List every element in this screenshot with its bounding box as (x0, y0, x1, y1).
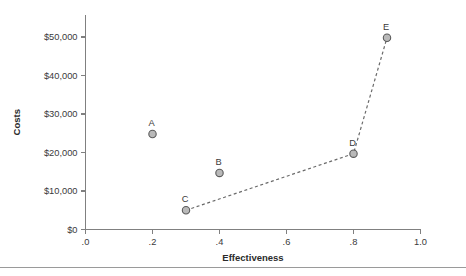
data-point-B[interactable] (216, 169, 223, 176)
y-tick-label-3: $30,000 (44, 109, 78, 119)
data-point-A[interactable] (149, 130, 156, 137)
data-point-label-C: C (182, 194, 189, 204)
data-point-label-B: B (215, 157, 221, 167)
y-tick-label-1: $10,000 (44, 186, 78, 196)
x-tick-label-5: 1.0 (414, 237, 427, 247)
y-tick-label-0: $0 (67, 225, 77, 235)
data-point-E[interactable] (383, 34, 390, 41)
efficiency-frontier-line (186, 38, 387, 210)
x-tick-label-2: .4 (216, 237, 224, 247)
data-point-label-E: E (383, 22, 389, 32)
x-axis-title: Effectiveness (222, 252, 283, 263)
cost-effectiveness-scatter-figure: $0$10,000$20,000$30,000$40,000$50,000.0.… (0, 0, 466, 276)
data-point-label-A: A (148, 118, 155, 128)
y-tick-label-4: $40,000 (44, 71, 78, 81)
y-tick-label-2: $20,000 (44, 148, 78, 158)
footer-divider (0, 267, 466, 268)
data-point-label-D: D (349, 138, 356, 148)
chart-canvas: $0$10,000$20,000$30,000$40,000$50,000.0.… (0, 0, 466, 276)
data-point-D[interactable] (350, 150, 357, 157)
x-tick-label-0: .0 (82, 237, 90, 247)
x-tick-label-4: .8 (350, 237, 358, 247)
data-point-C[interactable] (182, 207, 189, 214)
y-axis-title: Costs (11, 109, 22, 135)
x-tick-label-3: .6 (283, 237, 291, 247)
x-tick-label-1: .2 (149, 237, 157, 247)
y-tick-label-5: $50,000 (44, 32, 78, 42)
